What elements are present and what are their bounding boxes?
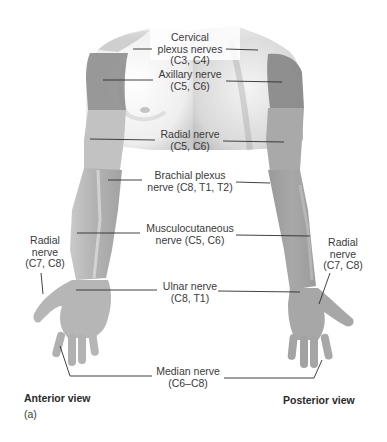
label-line: Median nerve: [148, 366, 228, 378]
label-brachial-plexus: Brachial plexus nerve (C8, T1, T2): [140, 170, 240, 193]
label-line: nerve (C5, C6): [136, 235, 244, 247]
label-line: (C8, T1): [150, 293, 230, 305]
label-line: (C3, C4): [150, 55, 230, 67]
dermatome-figure: Cervical plexus nerves (C3, C4) Axillary…: [0, 0, 387, 442]
label-ulnar-nerve: Ulnar nerve (C8, T1): [150, 281, 230, 304]
label-line: (C7, C8): [318, 260, 368, 272]
label-line: (C5, C6): [150, 81, 230, 93]
anterior-view-caption: Anterior view: [24, 392, 91, 404]
label-radial-nerve-right: Radial nerve (C7, C8): [318, 237, 368, 272]
label-radial-nerve-upper: Radial nerve (C5, C6): [150, 129, 230, 152]
label-line: (C6–C8): [148, 378, 228, 390]
label-musculocutaneous: Musculocutaneous nerve (C5, C6): [136, 223, 244, 246]
label-line: Musculocutaneous: [136, 223, 244, 235]
axillary-patch-left: [86, 53, 128, 110]
label-line: nerve (C8, T1, T2): [140, 182, 240, 194]
label-line: Ulnar nerve: [150, 281, 230, 293]
label-cervical-plexus: Cervical plexus nerves (C3, C4): [150, 32, 230, 67]
label-median-nerve: Median nerve (C6–C8): [148, 366, 228, 389]
label-radial-nerve-left: Radial nerve (C7, C8): [20, 235, 70, 270]
label-line: Radial nerve: [150, 129, 230, 141]
label-line: (C5, C6): [150, 141, 230, 153]
label-axillary-nerve: Axillary nerve (C5, C6): [150, 69, 230, 92]
panel-label: (a): [24, 408, 37, 420]
posterior-view-caption: Posterior view: [283, 394, 355, 406]
axillary-patch-right: [267, 54, 304, 108]
label-line: Axillary nerve: [150, 69, 230, 81]
label-line: Radial: [318, 237, 368, 249]
label-line: Cervical: [150, 32, 230, 44]
label-line: Brachial plexus: [140, 170, 240, 182]
anterior-hand: [33, 280, 111, 366]
label-line: Radial: [20, 235, 70, 247]
label-line: (C7, C8): [20, 258, 70, 270]
